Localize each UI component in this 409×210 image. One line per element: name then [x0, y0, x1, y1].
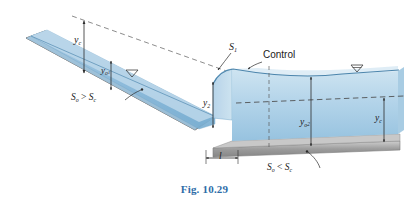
label-length-l: l	[219, 152, 222, 162]
control-leader-line	[248, 62, 262, 69]
figure-container: yc yo1 y2 yo2 yc S1 Control So > Sc So <…	[0, 0, 409, 210]
label-y2: y2	[203, 99, 210, 110]
hydraulic-jump-water	[213, 69, 232, 120]
slope-left-leader-dot	[141, 88, 143, 90]
label-yc-right: yc	[375, 114, 382, 125]
slope-right-leader-dot	[306, 150, 308, 152]
label-slope-left: So > Sc	[71, 93, 96, 104]
label-yc-left: yc	[74, 35, 81, 46]
steep-water-surface-line	[31, 36, 214, 116]
label-yo2: yo2	[300, 118, 310, 129]
label-s1-curve: S1	[229, 42, 237, 53]
label-slope-right: So < Sc	[267, 163, 292, 174]
slope-right-leader-line	[308, 152, 320, 168]
s1-leader-line	[218, 53, 231, 70]
steep-water-prism	[31, 30, 215, 129]
mild-channel-water	[232, 66, 404, 141]
label-control: Control	[263, 50, 295, 60]
label-yo1: yo1	[101, 66, 110, 76]
figure-caption: Fig. 10.29	[0, 183, 409, 195]
